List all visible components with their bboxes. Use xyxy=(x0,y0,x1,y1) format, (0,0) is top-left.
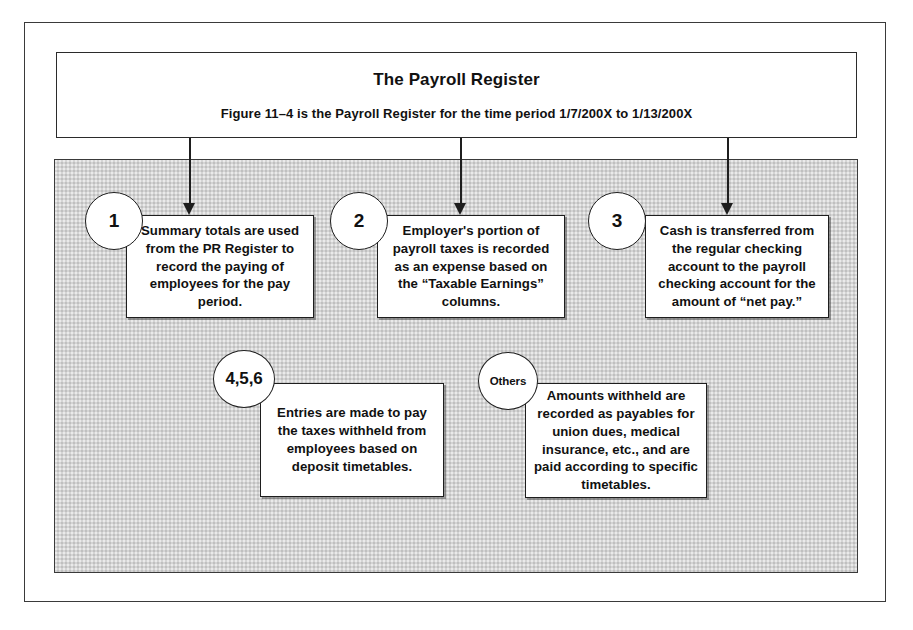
step-box-3: Cash is transferred from the regular che… xyxy=(645,215,829,318)
step-marker-others: Others xyxy=(478,352,538,410)
diagram-canvas: The Payroll Register Figure 11–4 is the … xyxy=(0,0,913,630)
step-box-1-text: Summary totals are used from the PR Regi… xyxy=(135,222,305,312)
connector-line-step-3 xyxy=(727,138,729,204)
connector-line-step-2 xyxy=(460,138,462,204)
step-marker-4-5-6: 4,5,6 xyxy=(213,350,275,408)
step-box-1: Summary totals are used from the PR Regi… xyxy=(126,215,314,318)
step-box-2: Employer's portion of payroll taxes is r… xyxy=(377,215,565,318)
step-marker-2-label: 2 xyxy=(354,210,365,232)
connector-arrowhead-step-1 xyxy=(183,203,195,215)
step-marker-3-label: 3 xyxy=(612,210,623,232)
connector-line-step-1 xyxy=(189,138,191,204)
step-box-others: Amounts withheld are recorded as payable… xyxy=(525,383,707,498)
step-marker-2: 2 xyxy=(330,192,388,250)
step-box-2-text: Employer's portion of payroll taxes is r… xyxy=(386,222,556,312)
step-box-4-5-6-text: Entries are made to pay the taxes withhe… xyxy=(269,404,435,476)
connector-arrowhead-step-3 xyxy=(721,203,733,215)
page-title: The Payroll Register xyxy=(373,70,539,90)
connector-arrowhead-step-2 xyxy=(454,203,466,215)
step-marker-1: 1 xyxy=(85,192,143,250)
step-box-3-text: Cash is transferred from the regular che… xyxy=(654,222,820,312)
payroll-register-header-box: The Payroll Register Figure 11–4 is the … xyxy=(56,52,857,138)
step-marker-3: 3 xyxy=(588,192,646,250)
step-marker-4-5-6-label: 4,5,6 xyxy=(226,369,263,389)
step-box-4-5-6: Entries are made to pay the taxes withhe… xyxy=(260,383,444,497)
step-box-others-text: Amounts withheld are recorded as payable… xyxy=(534,387,698,495)
step-marker-1-label: 1 xyxy=(109,210,120,232)
step-marker-others-label: Others xyxy=(490,375,526,387)
figure-subtitle: Figure 11–4 is the Payroll Register for … xyxy=(221,106,693,121)
